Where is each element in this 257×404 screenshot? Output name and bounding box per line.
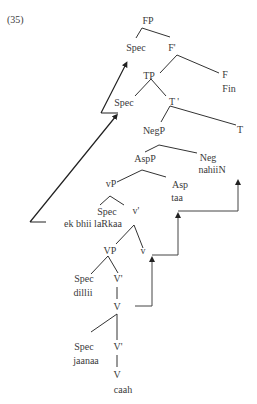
node-f-bar: F' bbox=[168, 42, 175, 53]
node-aspp: AspP bbox=[134, 153, 156, 164]
node-v-head-2: V bbox=[113, 369, 120, 380]
branch-f-bar bbox=[160, 55, 219, 73]
node-vp-spec: Spec bbox=[74, 273, 93, 284]
node-vp-light-spec: Spec bbox=[97, 206, 116, 217]
tree-branches bbox=[0, 0, 257, 404]
syntax-tree-diagram: (35) FP Spec F' TP F Fin Spec T ' NegP T… bbox=[0, 0, 257, 404]
movement-arrow-v-to-v-light bbox=[135, 259, 152, 306]
node-f-word: Fin bbox=[222, 83, 235, 94]
branch-vp-light bbox=[100, 196, 124, 205]
node-v-bar-2: V' bbox=[113, 341, 122, 352]
node-t-head: T bbox=[237, 124, 243, 135]
node-inner-spec: Spec bbox=[74, 341, 93, 352]
node-fp-spec: Spec bbox=[126, 42, 145, 53]
node-asp-head: Asp bbox=[172, 179, 188, 190]
branch-aspp bbox=[117, 170, 166, 182]
node-v-light-bar: v' bbox=[133, 205, 140, 216]
node-inner-spec-word: jaanaa bbox=[73, 355, 99, 366]
branch-tp bbox=[135, 79, 166, 96]
node-vp-light: vP bbox=[106, 178, 117, 189]
node-tp-spec: Spec bbox=[114, 97, 133, 108]
node-negp: NegP bbox=[143, 125, 165, 136]
movement-arrow-v-light-to-asp bbox=[152, 215, 178, 255]
node-neg-word: nahiiN bbox=[198, 164, 225, 175]
node-t-bar: T ' bbox=[169, 96, 179, 107]
node-fp: FP bbox=[142, 15, 153, 26]
branch-t-bar bbox=[161, 106, 236, 125]
node-v-light-head: v bbox=[141, 245, 146, 256]
node-asp-word: taa bbox=[171, 192, 183, 203]
branch-fp bbox=[136, 28, 170, 38]
node-v-head-1: V bbox=[113, 301, 120, 312]
example-number: (35) bbox=[7, 14, 24, 25]
branch-v-inner bbox=[91, 314, 117, 340]
node-v-bar-1: V' bbox=[113, 273, 122, 284]
node-vp-main: VP bbox=[104, 245, 117, 256]
node-tp: TP bbox=[143, 70, 155, 81]
node-vp-spec-word: dillii bbox=[74, 287, 93, 298]
node-neg-head: Neg bbox=[200, 152, 217, 163]
node-subject-word: ek bhii laRkaa bbox=[64, 218, 122, 229]
node-f-head: F bbox=[222, 69, 228, 80]
branch-vp-main bbox=[91, 256, 118, 274]
node-verb-word: caah bbox=[114, 384, 132, 395]
